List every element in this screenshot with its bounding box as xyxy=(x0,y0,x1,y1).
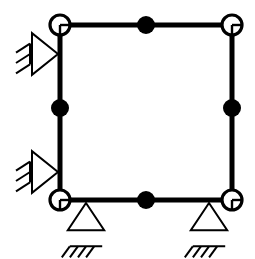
frame-members-group xyxy=(60,25,232,200)
support-left-lower xyxy=(16,151,58,193)
node-right-mid xyxy=(223,99,241,117)
support-left-lower-hatch-line xyxy=(16,162,30,171)
node-right-mid-dot xyxy=(223,99,241,117)
support-left-upper xyxy=(16,33,58,75)
support-bottom-right-ground-hatch xyxy=(193,246,201,257)
support-bottom-left-ground-hatch xyxy=(70,246,78,257)
support-left-lower-triangle xyxy=(32,151,58,193)
node-bottom-right xyxy=(222,190,242,210)
support-left-upper-triangle xyxy=(32,33,58,75)
node-left-mid-dot xyxy=(51,99,69,117)
supports-group xyxy=(16,33,227,257)
diagram-canvas xyxy=(0,0,255,259)
support-left-upper-hatch-line xyxy=(16,44,30,53)
support-bottom-right-ground-hatch xyxy=(201,246,209,257)
nodes-group xyxy=(50,15,242,210)
support-left-lower-hatch-line xyxy=(16,172,30,181)
node-bottom-mid-dot xyxy=(137,191,155,209)
support-bottom-left-ground-hatch xyxy=(86,246,94,257)
support-left-lower-hatch-line xyxy=(16,182,30,191)
node-left-mid xyxy=(51,99,69,117)
support-bottom-left-ground-hatch xyxy=(78,246,86,257)
node-top-mid xyxy=(137,16,155,34)
node-top-mid-dot xyxy=(137,16,155,34)
support-bottom-right-ground-hatch xyxy=(209,246,217,257)
support-left-upper-hatch-line xyxy=(16,64,30,73)
support-bottom-left xyxy=(62,203,104,257)
node-bottom-mid xyxy=(137,191,155,209)
support-bottom-right-triangle xyxy=(191,203,227,230)
support-bottom-left-ground-hatch xyxy=(62,246,70,257)
structural-frame-diagram xyxy=(0,0,255,259)
node-top-left xyxy=(50,15,70,35)
support-bottom-right-ground-hatch xyxy=(185,246,193,257)
support-bottom-left-triangle xyxy=(68,203,104,230)
support-bottom-right xyxy=(185,203,227,257)
node-top-right xyxy=(222,15,242,35)
support-left-upper-hatch-line xyxy=(16,54,30,63)
node-bottom-left xyxy=(50,190,70,210)
